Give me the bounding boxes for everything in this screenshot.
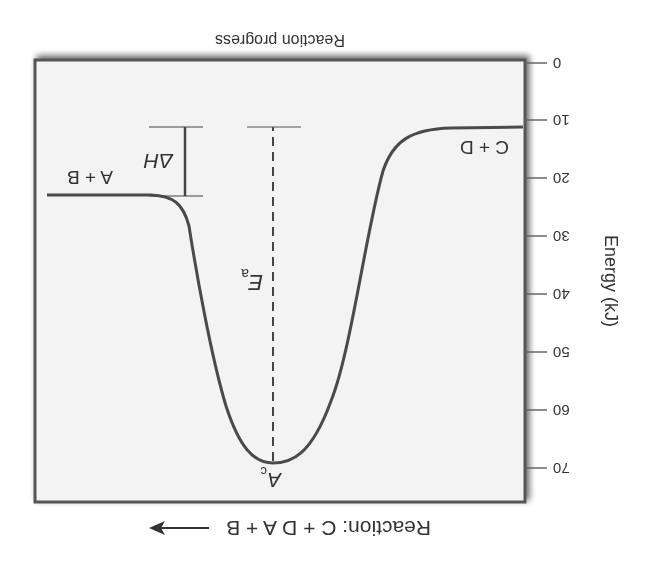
y-axis (525, 63, 547, 468)
x-axis-label: Reaction progress (215, 32, 345, 49)
svg-text:c: c (260, 464, 267, 479)
y-tick-label: 50 (553, 344, 570, 361)
y-tick-label: 30 (553, 228, 570, 245)
enthalpy-label: ΔH (143, 150, 174, 173)
energy-diagram-figure: 0 10 20 30 40 50 60 70 Energy (kJ) React… (0, 0, 651, 571)
svg-text:A: A (268, 469, 282, 491)
y-axis-label: Energy (kJ) (601, 235, 621, 327)
plot-area (35, 60, 525, 502)
y-tick-label: 0 (553, 55, 561, 72)
y-tick-label: 10 (553, 112, 570, 129)
energy-diagram-svg: 0 10 20 30 40 50 60 70 Energy (kJ) React… (0, 0, 651, 571)
svg-text:a: a (241, 266, 249, 282)
svg-text:E: E (248, 270, 263, 295)
reactants-label: C + D (460, 137, 509, 158)
svg-text:Reaction: C + D: Reaction: C + D (282, 517, 431, 540)
products-label: A + B (67, 167, 113, 188)
y-tick-label: 70 (553, 460, 570, 477)
svg-text:A + B: A + B (226, 517, 277, 540)
reaction-caption: Reaction: C + D A + B (149, 517, 431, 540)
y-tick-label: 20 (553, 170, 570, 187)
y-tick-label: 40 (553, 286, 570, 303)
y-tick-label: 60 (553, 402, 570, 419)
